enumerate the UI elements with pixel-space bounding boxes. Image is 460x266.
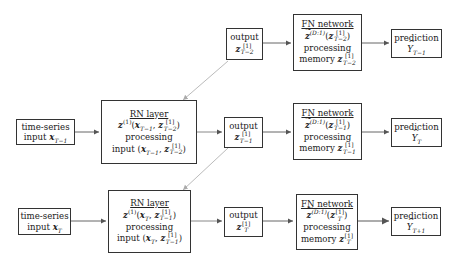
prediction-box-row2: prediction YT (391, 118, 442, 147)
time-series-label: time-series (21, 122, 69, 133)
fn-network-box-row1: FN network z(D:1)(z[1]T−2) processing me… (293, 14, 362, 71)
fn-network-memory: memory z[1]T (301, 233, 353, 246)
time-series-input: input xT (27, 222, 62, 233)
fn-network-memory: memory z[1]T−1 (299, 142, 356, 155)
time-series-input-box-row2: time-series input xT−1 (16, 119, 75, 145)
fn-network-processing: processing (304, 43, 351, 54)
rn-layer-title: RN layer (130, 109, 169, 120)
output-variable: z[1]T−1 (234, 131, 252, 144)
fn-network-box-row3: FN network z(D:1)(z[1]T) processing memo… (296, 194, 358, 250)
rn-layer-input: input (xT−1, z[1]T−2) (112, 143, 186, 156)
output-box-row2: output z[1]T−1 (224, 117, 263, 148)
prediction-variable: YT (412, 133, 422, 144)
fn-network-processing: processing (304, 132, 351, 143)
output-variable: z[1]T−2 (235, 43, 253, 56)
prediction-label: prediction (394, 211, 439, 222)
prediction-label: prediction (394, 33, 439, 44)
time-series-input-box-row3: time-series input xT (18, 208, 71, 235)
fn-network-memory: memory z[1]T−2 (299, 53, 356, 66)
rn-layer-equation: z(1)(xT, z[1]T−1) (123, 209, 176, 222)
prediction-variable: YT+1 (407, 222, 426, 233)
fn-network-box-row2: FN network z(D:1)(z[1]T−1) processing me… (293, 103, 362, 160)
rn-layer-equation: z(1)(xT−1, z[1]T−2) (118, 119, 180, 132)
edge-output1-rn2 (183, 61, 228, 100)
time-series-input: input xT−1 (24, 132, 68, 143)
output-box-row3: output z[1]T (224, 207, 263, 237)
rn-layer-box-row2: RN layer z(1)(xT−1, z[1]T−2) processing … (101, 100, 197, 164)
fn-network-equation: z(D:1)(z[1]T−1) (305, 119, 350, 132)
rn-layer-input: input (xT, z[1]T−1) (117, 232, 182, 245)
rn-layer-box-row3: RN layer z(1)(xT, z[1]T−1) processing in… (108, 190, 191, 253)
rn-layer-processing: processing (126, 222, 173, 233)
prediction-box-row3: prediction YT+1 (391, 207, 441, 236)
fn-network-processing: processing (303, 222, 350, 233)
output-box-row1: output z[1]T−2 (226, 28, 263, 60)
rn-layer-processing: processing (125, 132, 172, 143)
prediction-box-row1: prediction YT−1 (391, 29, 442, 58)
time-series-label: time-series (20, 211, 68, 222)
fn-network-equation: z(D:1)(z[1]T−2) (305, 30, 350, 43)
fn-network-equation: z(D:1)(z[1]T) (307, 209, 348, 222)
prediction-variable: YT−1 (407, 44, 426, 55)
output-variable: z[1]T (237, 221, 251, 234)
